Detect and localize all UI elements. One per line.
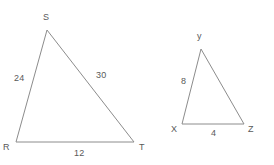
vertex-label-s: S (43, 12, 49, 22)
side-label-xy: 8 (181, 76, 186, 86)
vertex-label-r: R (3, 142, 10, 152)
vertex-label-t: T (139, 142, 145, 152)
triangle-xyz-outline (182, 49, 244, 124)
vertex-label-y: y (197, 31, 202, 41)
side-label-rs: 24 (14, 73, 24, 83)
vertex-label-x: X (171, 124, 177, 134)
vertex-label-z: Z (248, 124, 254, 134)
side-label-rt: 12 (74, 148, 84, 158)
triangles-svg (0, 0, 274, 165)
geometry-diagram: S R T 24 30 12 y X Z 8 4 (0, 0, 274, 165)
triangle-rst-outline (16, 30, 134, 142)
side-label-xz: 4 (211, 128, 216, 138)
side-label-st: 30 (96, 70, 106, 80)
